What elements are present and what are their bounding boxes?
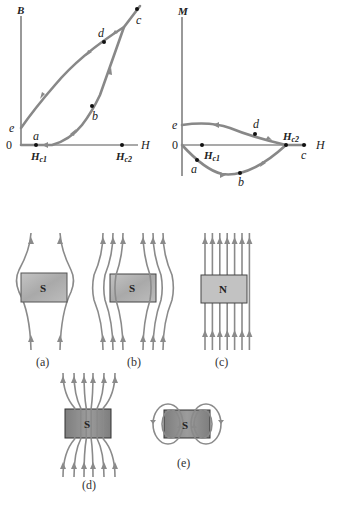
point-hc1 (200, 143, 204, 147)
m-axis-label: M (177, 5, 189, 17)
field-arrow (100, 237, 106, 244)
field-arrow (202, 237, 208, 244)
label-e: e (172, 118, 178, 132)
origin-label: 0 (172, 138, 178, 152)
b-axis-label: B (16, 4, 24, 16)
sample-label: S (84, 418, 90, 430)
point-hc2 (120, 143, 124, 147)
field-arrow (140, 335, 146, 342)
origin-label: 0 (6, 138, 12, 152)
demagnetization-curve (21, 6, 140, 128)
h-axis-label: H (315, 138, 326, 152)
label-c: c (136, 13, 142, 27)
panel-b: S (b) (93, 233, 174, 369)
point-a (34, 143, 38, 147)
field-arrow (71, 376, 77, 383)
field-arrow (150, 335, 156, 342)
field-arrow (101, 462, 107, 469)
panel-d: S (d) (60, 373, 118, 492)
field-arrow (101, 376, 107, 383)
point-c (135, 7, 139, 11)
field-arrow (120, 335, 126, 342)
caption-e: (e) (177, 456, 190, 470)
field-arrow (90, 376, 96, 383)
field-arrow (110, 335, 116, 342)
field-arrow (100, 335, 106, 342)
label-hc2: Hc2 (282, 130, 299, 144)
h-axis-label: H (140, 138, 151, 152)
graph-b-vs-h: B H 0 a b c d e Hc1 Hc2 (6, 4, 151, 164)
field-arrow (232, 330, 238, 337)
diagram-canvas: B H 0 a b c d e Hc1 Hc2 M H 0 (0, 0, 338, 507)
label-hc1: Hc1 (30, 150, 47, 164)
panel-a: S (a) (17, 233, 74, 369)
panel-c: N (c) (201, 233, 252, 369)
caption-a: (a) (36, 355, 49, 369)
caption-c: (c) (215, 355, 228, 369)
field-arrow (224, 237, 230, 244)
caption-b: (b) (127, 355, 141, 369)
field-arrow (60, 462, 66, 469)
field-arrow (81, 376, 87, 383)
field-arrow (160, 335, 166, 342)
point-b (90, 104, 94, 108)
field-arrow (57, 335, 63, 342)
field-arrow (150, 420, 156, 424)
field-arrow (209, 237, 215, 244)
label-d: d (253, 117, 260, 131)
field-arrow (202, 330, 208, 337)
upper-curve (182, 124, 286, 145)
field-arrow (112, 376, 118, 383)
field-arrow (81, 462, 87, 469)
field-arrow (160, 237, 166, 244)
field-line (93, 233, 103, 350)
field-line (163, 233, 173, 350)
field-arrow (28, 237, 34, 244)
point-d (253, 132, 257, 136)
flow-arrow (213, 122, 219, 128)
field-arrow (232, 237, 238, 244)
field-arrow (224, 330, 230, 337)
point-d (102, 40, 106, 44)
field-arrow (90, 462, 96, 469)
caption-d: (d) (82, 478, 96, 492)
field-arrow (218, 420, 224, 424)
point-hc2 (284, 143, 288, 147)
field-arrow (150, 237, 156, 244)
label-hc1: Hc1 (203, 149, 220, 163)
field-arrow (239, 237, 245, 244)
label-c: c (301, 148, 307, 162)
sample-label: S (182, 419, 188, 431)
magnetization-curve (21, 27, 124, 145)
sample-label: N (219, 283, 227, 295)
label-d: d (98, 26, 105, 40)
panel-e: S (e) (150, 404, 224, 470)
field-arrow (71, 462, 77, 469)
flow-arrow (42, 142, 48, 148)
label-e: e (9, 121, 15, 135)
label-a: a (33, 129, 39, 143)
field-arrow (57, 237, 63, 244)
field-arrow (217, 237, 223, 244)
field-arrow (110, 237, 116, 244)
point-c (302, 143, 306, 147)
field-arrow (28, 335, 34, 342)
field-arrow (140, 237, 146, 244)
sample-label: S (40, 282, 46, 294)
field-arrow (217, 330, 223, 337)
label-a: a (191, 162, 197, 176)
label-b: b (238, 175, 244, 189)
field-arrow (246, 237, 252, 244)
field-arrow (112, 462, 118, 469)
field-arrow (209, 330, 215, 337)
field-arrow (239, 330, 245, 337)
field-arrow (60, 376, 66, 383)
label-hc2: Hc2 (115, 150, 132, 164)
label-b: b (92, 109, 98, 123)
sample-label: S (129, 282, 135, 294)
field-arrow (246, 330, 252, 337)
graph-m-vs-h: M H 0 a b c d e Hc1 Hc2 (172, 5, 326, 189)
field-arrow (120, 237, 126, 244)
